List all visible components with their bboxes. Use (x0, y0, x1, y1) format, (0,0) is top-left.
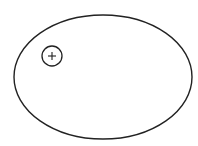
outer-ellipse (14, 15, 192, 139)
diagram-canvas (0, 0, 198, 146)
positive-charge (42, 46, 62, 66)
